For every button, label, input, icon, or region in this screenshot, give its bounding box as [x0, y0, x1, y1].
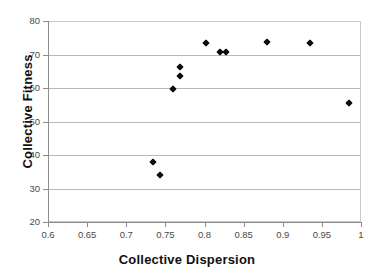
x-axis-tick	[165, 222, 166, 227]
x-axis-tick-label: 0.9	[263, 229, 303, 240]
y-axis-tick-label: 20	[6, 217, 40, 226]
x-axis-tick-label: 0.8	[185, 229, 225, 240]
data-point-marker	[170, 85, 177, 92]
data-point-marker	[176, 64, 183, 71]
x-axis-tick-label: 0.95	[302, 229, 342, 240]
x-axis-tick-label: 0.75	[145, 229, 185, 240]
plot-area	[48, 21, 361, 222]
x-axis-tick	[244, 222, 245, 227]
y-axis-tick	[43, 21, 48, 22]
data-point-marker	[263, 39, 270, 46]
x-axis-tick-label: 0.65	[67, 229, 107, 240]
data-point-marker	[345, 100, 352, 107]
x-axis-tick	[48, 222, 49, 227]
x-axis-tick-label: 0.7	[106, 229, 146, 240]
data-point-marker	[157, 172, 164, 179]
x-axis-tick	[322, 222, 323, 227]
x-axis-tick	[205, 222, 206, 227]
gridline-y	[49, 88, 360, 89]
chart-title-clipped	[0, 0, 374, 5]
gridline-y	[49, 189, 360, 190]
y-axis-line	[48, 21, 49, 222]
y-axis-tick-label: 80	[6, 16, 40, 25]
y-axis-tick	[43, 155, 48, 156]
gridline-y	[49, 55, 360, 56]
x-axis-tick-label: 0.85	[224, 229, 264, 240]
data-point-marker	[306, 40, 313, 47]
x-axis-tick	[87, 222, 88, 227]
x-axis-tick	[126, 222, 127, 227]
x-axis-tick	[361, 222, 362, 227]
data-point-marker	[150, 158, 157, 165]
scatter-chart-figure: 20304050607080 Collective Fitness Collec…	[0, 0, 374, 277]
x-axis-tick	[283, 222, 284, 227]
y-axis-title: Collective Fitness	[20, 32, 35, 192]
gridline-y	[49, 155, 360, 156]
y-axis-tick	[43, 55, 48, 56]
x-axis-tick-label: 1	[341, 229, 374, 240]
x-axis-tick-label: 0.6	[28, 229, 68, 240]
y-axis-tick	[43, 189, 48, 190]
x-axis-title: Collective Dispersion	[0, 252, 374, 267]
y-axis-tick	[43, 88, 48, 89]
data-point-marker	[176, 72, 183, 79]
y-axis-tick	[43, 122, 48, 123]
data-point-marker	[202, 40, 209, 47]
gridline-y	[49, 122, 360, 123]
